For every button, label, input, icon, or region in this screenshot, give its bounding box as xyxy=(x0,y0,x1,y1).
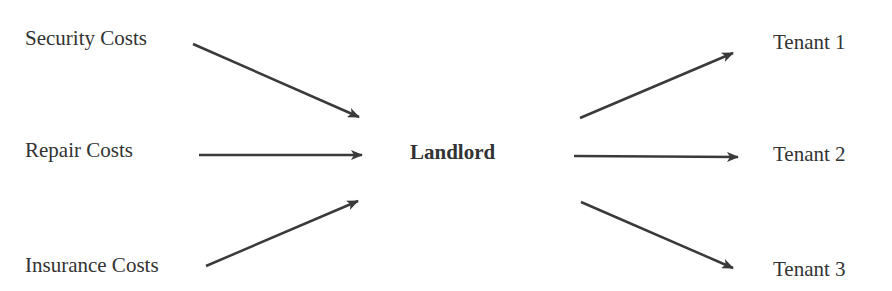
arrow-landlord-to-tenant1 xyxy=(580,53,733,118)
arrows-layer xyxy=(0,0,892,291)
arrow-insurance-to-landlord xyxy=(206,201,358,266)
arrow-landlord-to-tenant2 xyxy=(574,156,738,157)
arrow-landlord-to-tenant3 xyxy=(581,202,733,268)
arrow-security-to-landlord xyxy=(193,44,359,117)
